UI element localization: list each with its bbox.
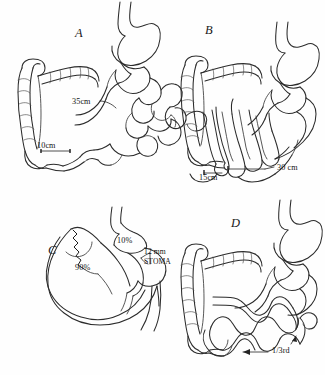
- colon-d: [181, 244, 262, 356]
- label-d-one-third: 1/3rd: [272, 346, 290, 355]
- label-c-stoma-size: 12 mm: [144, 247, 166, 256]
- panel-c-art: [46, 207, 165, 331]
- label-c-90-percent: 90%: [75, 263, 90, 272]
- label-a-10cm: 10cm: [37, 141, 56, 150]
- medical-figure: A B C D 35cm 10cm 15cm 30 cm 10% 12 mm S…: [0, 0, 325, 375]
- label-c-10-percent: 10%: [117, 236, 132, 245]
- panel-letter-a: A: [75, 26, 83, 41]
- stomach-d: [274, 200, 322, 275]
- stomach-b: [271, 22, 319, 98]
- pouch-c: [111, 207, 147, 253]
- panel-letter-b: B: [205, 23, 213, 38]
- panel-letter-d: D: [231, 216, 240, 231]
- small-bowel-a: [75, 70, 207, 165]
- panel-d-art: [181, 200, 322, 356]
- panel-letter-c: C: [48, 243, 57, 258]
- label-c-stoma-name: STOMA: [144, 257, 171, 266]
- small-bowel-d: [203, 267, 317, 356]
- figure-linework: [0, 0, 325, 375]
- panel-b-art: [181, 22, 319, 182]
- colon-a: [18, 59, 99, 171]
- label-b-30cm: 30 cm: [277, 163, 298, 172]
- label-a-35cm: 35cm: [72, 97, 91, 106]
- label-b-15cm: 15cm: [199, 173, 218, 182]
- stomach-a: [112, 2, 160, 78]
- gastric-remnant-c: [46, 229, 157, 325]
